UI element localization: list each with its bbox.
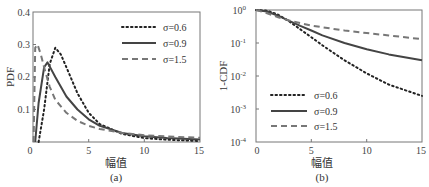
xtick-a-2: 10 [139, 145, 149, 156]
ytick-a-1: 0.2 [18, 71, 31, 82]
legend-b-item-2: σ=1.5 [314, 121, 338, 132]
legend-b: σ=0.6 σ=0.9 σ=1.5 [271, 90, 338, 132]
caption-b: (b) [316, 171, 329, 184]
curves-b [256, 10, 422, 96]
xtick-b-3: 15 [416, 145, 426, 156]
ytick-b-2: 10-2 [230, 70, 246, 82]
series-solid-line [35, 62, 200, 142]
xtick-b-2: 10 [362, 145, 372, 156]
legend-a-item-2: σ=1.5 [163, 54, 187, 65]
panel-b: 100 10-1 10-2 10-3 10-4 0 5 10 15 幅值 (b)… [217, 4, 426, 184]
xlabel-b: 幅值 [311, 157, 333, 170]
xtick-b-0: 0 [255, 145, 260, 156]
xtick-a-1: 5 [86, 145, 91, 156]
ytick-b-1: 10-1 [230, 37, 246, 49]
ytick-a-0: 0.1 [18, 104, 31, 115]
xtick-a-3: 15 [194, 145, 204, 156]
yticks-b: 100 10-1 10-2 10-3 10-4 [230, 4, 246, 148]
series-solid-line [256, 10, 422, 60]
ylabel-b: 1-CDF [217, 61, 229, 92]
xlabel-a: 幅值 [105, 157, 127, 170]
ytick-a-3: 0.4 [18, 7, 31, 18]
xtick-b-1: 5 [309, 145, 314, 156]
series-dotted-line [256, 10, 422, 96]
ytick-b-0: 100 [233, 4, 247, 16]
xtick-a-0: 0 [28, 145, 33, 156]
panel-a: 0.1 0.2 0.3 0.4 0 5 10 15 幅值 (a) PDF σ=0… [4, 7, 204, 184]
ytick-b-3: 10-3 [230, 103, 246, 115]
legend-b-item-1: σ=0.9 [314, 106, 338, 117]
caption-a: (a) [110, 171, 123, 184]
legend-a-item-1: σ=0.9 [163, 38, 187, 49]
series-dashed-line [256, 10, 422, 39]
legend-a: σ=0.6 σ=0.9 σ=1.5 [122, 22, 187, 65]
legend-a-item-0: σ=0.6 [163, 22, 187, 33]
figure: 0.1 0.2 0.3 0.4 0 5 10 15 幅值 (a) PDF σ=0… [0, 0, 429, 187]
legend-b-item-0: σ=0.6 [314, 90, 338, 101]
ytick-b-4: 10-4 [230, 136, 246, 148]
ytick-a-2: 0.3 [18, 39, 31, 50]
ylabel-a: PDF [4, 67, 16, 87]
